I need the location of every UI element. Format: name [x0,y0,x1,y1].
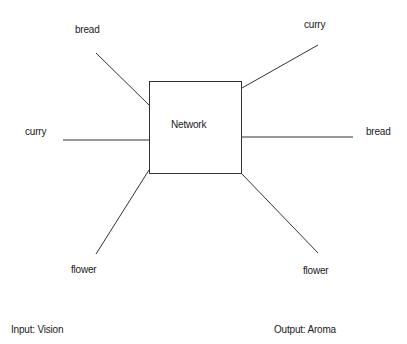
input-label-flower: flower [71,264,96,276]
edge-output-curry [242,45,318,88]
edge-input-bread [96,53,149,105]
network-label: Network [171,119,206,131]
output-caption: Output: Aroma [274,324,336,336]
output-label-bread: bread [366,126,391,138]
input-label-bread: bread [75,24,100,36]
network-diagram: Network bread curry flower curry bread f… [0,0,407,344]
output-label-flower: flower [303,265,328,277]
edge-output-flower [242,174,318,253]
input-label-curry: curry [25,126,46,138]
output-label-curry: curry [304,19,325,31]
edge-input-flower [96,170,149,254]
input-caption: Input: Vision [11,324,63,336]
network-box: Network [149,81,242,174]
